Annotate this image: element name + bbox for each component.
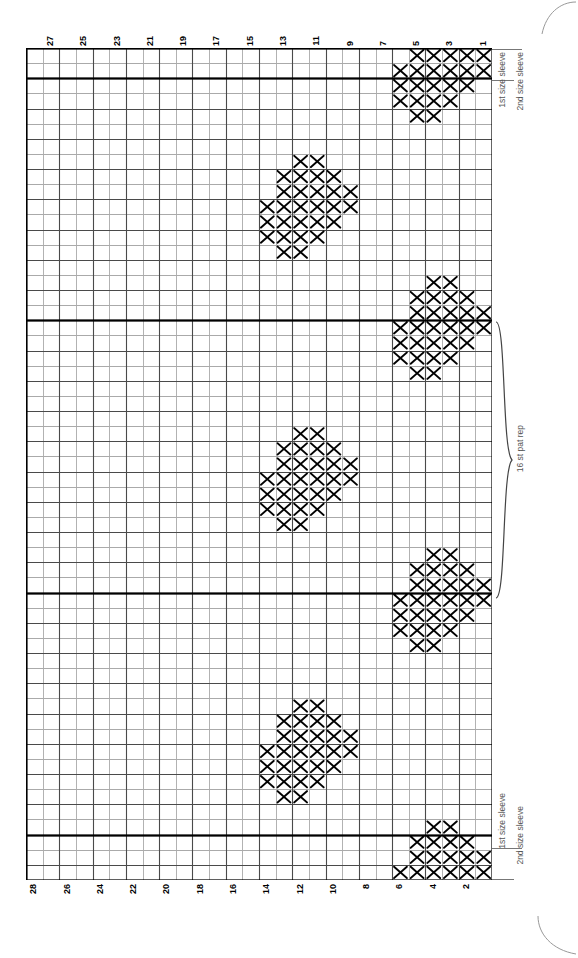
column-number-4: 4	[429, 884, 439, 889]
column-number-15: 15	[246, 36, 256, 46]
column-number-6: 6	[395, 884, 405, 889]
tick-bottom-2nd	[492, 879, 514, 880]
column-number-14: 14	[262, 884, 272, 894]
column-number-23: 23	[113, 36, 123, 46]
column-number-17: 17	[212, 36, 222, 46]
label-1st-size-sleeve-top: 1st size sleeve	[498, 52, 507, 108]
chart-grid[interactable]	[26, 48, 492, 880]
column-numbers-bottom: 282624222018161412108642	[26, 884, 492, 910]
column-number-7: 7	[379, 41, 389, 46]
page-edge-arc-bottom	[534, 916, 578, 958]
page-edge-arc-top	[540, 0, 576, 34]
column-number-5: 5	[412, 41, 422, 46]
column-number-8: 8	[362, 884, 372, 889]
column-number-16: 16	[229, 884, 239, 894]
column-number-28: 28	[29, 884, 39, 894]
column-number-11: 11	[312, 36, 322, 46]
column-number-19: 19	[179, 36, 189, 46]
label-2nd-size-sleeve-bottom: 2nd size sleeve	[516, 806, 525, 865]
column-number-24: 24	[96, 884, 106, 894]
column-number-20: 20	[162, 884, 172, 894]
column-number-10: 10	[329, 884, 339, 894]
label-16-st-pat-rep: 16 st pat rep	[516, 425, 525, 472]
column-number-1: 1	[479, 41, 489, 46]
tick-top-1st	[492, 49, 522, 50]
pat-rep-brace	[494, 320, 516, 600]
label-1st-size-sleeve-bottom: 1st size sleeve	[498, 793, 507, 849]
chart-grid-canvas[interactable]	[26, 48, 492, 880]
column-number-13: 13	[279, 36, 289, 46]
column-number-26: 26	[63, 884, 73, 894]
column-number-27: 27	[46, 36, 56, 46]
column-number-22: 22	[129, 884, 139, 894]
column-number-9: 9	[346, 41, 356, 46]
label-2nd-size-sleeve-top: 2nd size sleeve	[516, 52, 525, 111]
column-number-3: 3	[445, 41, 455, 46]
column-number-12: 12	[296, 884, 306, 894]
column-number-25: 25	[79, 36, 89, 46]
column-numbers-top: 27252321191715131197531	[26, 22, 492, 46]
column-number-21: 21	[146, 36, 156, 46]
column-number-18: 18	[196, 884, 206, 894]
column-number-2: 2	[462, 884, 472, 889]
